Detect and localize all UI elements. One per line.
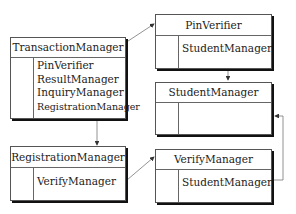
- link-verifymanager-to-studentmanager: [274, 116, 283, 180]
- class-box-pin-verifier: PinVerifier StudentManager: [155, 14, 272, 69]
- box-title: StudentManager: [156, 83, 271, 103]
- box-divider: [178, 102, 179, 134]
- class-box-verify-manager: VerifyManager StudentManager: [155, 149, 272, 203]
- box-item: PinVerifier: [37, 59, 140, 73]
- box-item: InquiryManager: [37, 86, 140, 100]
- class-box-transaction-manager: TransactionManager PinVerifier ResultMan…: [10, 37, 126, 119]
- box-item: StudentManager: [182, 176, 272, 190]
- box-title: PinVerifier: [156, 15, 271, 36]
- class-box-student-manager: StudentManager: [155, 82, 272, 135]
- box-divider: [178, 169, 179, 202]
- box-item: ResultManager: [37, 73, 140, 87]
- link-regmgr-to-verifymanager: [127, 157, 154, 180]
- box-title: VerifyManager: [156, 150, 271, 170]
- box-items: VerifyManager: [37, 175, 116, 189]
- box-divider: [178, 35, 179, 68]
- box-title: RegistrationManager: [11, 147, 125, 168]
- box-title: TransactionManager: [11, 38, 125, 58]
- box-items: StudentManager: [182, 42, 272, 56]
- box-items: PinVerifier ResultManager InquiryManager…: [37, 59, 140, 113]
- box-item: RegistrationManager: [37, 100, 140, 114]
- box-item: StudentManager: [182, 42, 272, 56]
- box-divider: [33, 57, 34, 118]
- box-divider: [33, 167, 34, 200]
- class-box-registration-manager: RegistrationManager VerifyManager: [10, 146, 126, 201]
- box-item: VerifyManager: [37, 175, 116, 189]
- box-items: StudentManager: [182, 176, 272, 190]
